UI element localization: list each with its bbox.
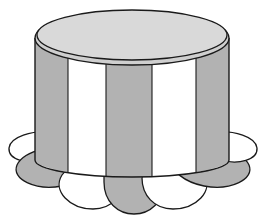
body-panel-5 [196,38,229,172]
body-panel-1 [35,38,68,172]
top-ellipse-group [35,10,229,65]
figure-canvas: Round pedestal table with scalloped skir… [0,0,265,217]
body-panel-3 [106,57,152,177]
top-face-ellipse [37,10,227,60]
table-with-skirt-illustration: Round pedestal table with scalloped skir… [0,0,265,217]
